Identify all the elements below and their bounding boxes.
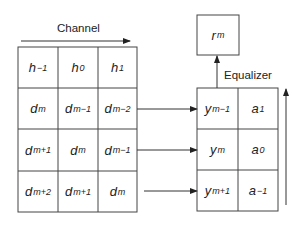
channel-cell: dm+2 [18,171,58,212]
output-base: r [212,28,216,43]
channel-cell: h1 [98,47,137,88]
equalizer-tap-cell: a−1 [238,170,278,211]
channel-cell: dm [18,88,58,129]
equalizer-input-cell: ym−1 [197,88,238,129]
channel-cell: dm [58,129,98,171]
equalizer-label: Equalizer [224,69,272,81]
channel-cell: dm+1 [58,171,98,212]
equalizer-input-cell: ym [197,129,238,170]
channel-cell: h−1 [18,47,58,88]
equalizer-tap-cell: a1 [238,88,278,129]
channel-cell: dm [98,171,137,212]
equalizer-input-cell: ym+1 [197,170,238,211]
output-r-m: rm [197,15,239,55]
channel-label: Channel [57,22,100,34]
equalizer-tap-cell: a0 [238,129,278,170]
channel-cell: dm+1 [18,129,58,171]
channel-cell: h0 [58,47,98,88]
output-sub: m [217,30,225,40]
channel-cell: dm−2 [98,88,137,129]
channel-cell: dm−1 [58,88,98,129]
channel-cell: dm−1 [98,129,137,171]
